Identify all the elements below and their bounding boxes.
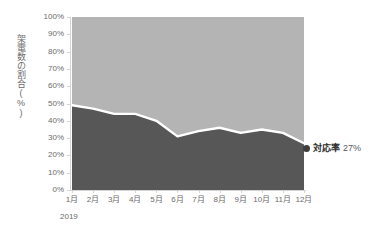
x-tick-mark <box>220 190 221 193</box>
x-tick-mark <box>135 190 136 193</box>
x-tick-mark <box>199 190 200 193</box>
x-tick-mark <box>72 190 73 193</box>
y-tick-mark <box>67 34 70 35</box>
x-tick-label: 4月 <box>129 195 141 204</box>
y-tick-mark <box>67 86 70 87</box>
plot-area <box>72 17 304 190</box>
x-axis-line <box>70 190 306 191</box>
period-label: 2019 <box>60 212 78 221</box>
y-tick-mark <box>67 121 70 122</box>
y-tick-mark <box>67 190 70 191</box>
x-tick-label: 10月 <box>253 195 270 204</box>
x-tick-mark <box>283 190 284 193</box>
y-tick-mark <box>67 104 70 105</box>
x-tick-label: 6月 <box>171 195 183 204</box>
y-axis-tick-labels: 0%10%20%30%40%50%60%70%80%90%100% <box>28 17 68 190</box>
y-tick-label: 90% <box>48 30 64 38</box>
x-tick-mark <box>241 190 242 193</box>
y-tick-label: 80% <box>48 48 64 56</box>
y-tick-label: 30% <box>48 134 64 142</box>
annotation-series-value: 27% <box>343 143 361 153</box>
x-tick-label: 7月 <box>192 195 204 204</box>
y-tick-label: 50% <box>48 100 64 108</box>
x-tick-mark <box>93 190 94 193</box>
y-tick-label: 40% <box>48 117 64 125</box>
x-axis-tick-labels: 1月2月3月4月5月6月7月8月9月10月11月12月 <box>72 195 304 209</box>
x-tick-label: 11月 <box>275 195 291 204</box>
x-tick-mark <box>114 190 115 193</box>
y-tick-mark <box>67 69 70 70</box>
y-tick-label: 0% <box>52 186 64 194</box>
y-tick-label: 100% <box>44 13 64 21</box>
y-tick-mark <box>67 138 70 139</box>
x-tick-mark <box>304 190 305 193</box>
x-tick-mark <box>262 190 263 193</box>
x-tick-label: 9月 <box>234 195 246 204</box>
y-tick-mark <box>67 17 70 18</box>
x-tick-mark <box>177 190 178 193</box>
y-tick-label: 20% <box>48 151 64 159</box>
stacked-area-plot <box>72 17 304 190</box>
x-tick-label: 3月 <box>108 195 120 204</box>
annotation-series-name: 対応率 <box>313 143 340 153</box>
y-axis-line <box>70 17 71 190</box>
y-tick-label: 60% <box>48 82 64 90</box>
end-annotation: 対応率 27% <box>303 143 361 153</box>
y-tick-mark <box>67 155 70 156</box>
y-axis-title: 架電数の割合(%) <box>6 16 26 136</box>
x-tick-mark <box>156 190 157 193</box>
y-tick-mark <box>67 52 70 53</box>
x-tick-label: 1月 <box>66 195 78 204</box>
x-tick-label: 2月 <box>87 195 99 204</box>
annotation-dot-icon <box>303 145 310 152</box>
y-tick-label: 10% <box>48 169 64 177</box>
x-tick-label: 5月 <box>150 195 162 204</box>
x-tick-label: 12月 <box>296 195 313 204</box>
chart-container: 架電数の割合(%) 0%10%20%30%40%50%60%70%80%90%1… <box>0 0 375 249</box>
y-tick-mark <box>67 173 70 174</box>
x-tick-label: 8月 <box>213 195 225 204</box>
y-tick-label: 70% <box>48 65 64 73</box>
